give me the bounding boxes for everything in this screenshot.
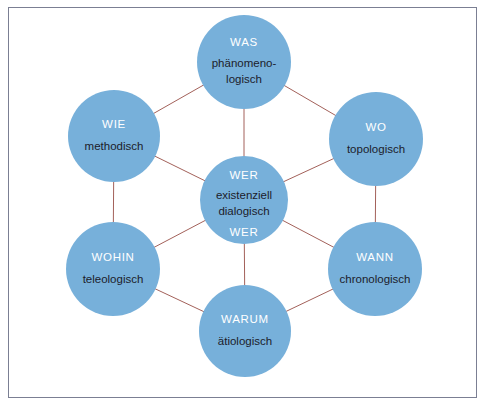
node-desc1-wer: existenziell bbox=[216, 189, 272, 201]
node-title-top-wer: WER bbox=[230, 169, 259, 181]
node-title-wann: WANN bbox=[356, 251, 394, 263]
node-circle-wie[interactable] bbox=[68, 90, 160, 182]
node-circle-wo[interactable] bbox=[329, 92, 423, 186]
connector-wer-to-wohin bbox=[154, 220, 206, 248]
node-wer-center[interactable]: WERexistenzielldialogischWER bbox=[200, 156, 288, 244]
node-title-wo: WO bbox=[365, 121, 386, 133]
node-circle-wohin[interactable] bbox=[66, 222, 160, 316]
node-desc1-wann: chronologisch bbox=[340, 273, 411, 285]
connector-was-to-wo bbox=[284, 85, 337, 116]
node-circle-warum[interactable] bbox=[199, 285, 291, 377]
connector-wann-to-warum bbox=[286, 289, 334, 312]
connector-wer-to-wann bbox=[282, 220, 334, 248]
node-circle-wann[interactable] bbox=[328, 222, 422, 316]
node-title-wohin: WOHIN bbox=[91, 251, 134, 263]
node-desc1-was: phänomeno- bbox=[212, 57, 277, 69]
node-desc1-wie: methodisch bbox=[85, 140, 144, 152]
node-title-was: WAS bbox=[230, 36, 258, 48]
node-was[interactable]: WASphänomeno-logisch bbox=[197, 15, 291, 109]
connector-wer-to-wie bbox=[154, 156, 205, 181]
node-desc1-warum: ätiologisch bbox=[218, 335, 272, 347]
node-desc1-wohin: teleologisch bbox=[83, 273, 144, 285]
node-layer: WASphänomeno-logischWOtopologischWANNchr… bbox=[66, 15, 423, 377]
w-questions-diagram: WASphänomeno-logischWOtopologischWANNchr… bbox=[0, 0, 485, 407]
connector-warum-to-wohin bbox=[155, 289, 205, 312]
node-wie[interactable]: WIEmethodisch bbox=[68, 90, 160, 182]
node-title-bottom-wer: WER bbox=[230, 226, 259, 238]
node-title-warum: WARUM bbox=[221, 313, 269, 325]
node-title-wie: WIE bbox=[102, 118, 126, 130]
node-wo[interactable]: WOtopologisch bbox=[329, 92, 423, 186]
node-wohin[interactable]: WOHINteleologisch bbox=[66, 222, 160, 316]
node-desc1-wo: topologisch bbox=[347, 143, 405, 155]
connector-wer-to-wo bbox=[283, 158, 334, 182]
connector-wie-to-was bbox=[153, 85, 204, 114]
node-desc2-was: logisch bbox=[226, 73, 262, 85]
node-desc2-wer: dialogisch bbox=[218, 205, 269, 217]
node-wann[interactable]: WANNchronologisch bbox=[328, 222, 422, 316]
node-warum[interactable]: WARUMätiologisch bbox=[199, 285, 291, 377]
diagram-canvas: WASphänomeno-logischWOtopologischWANNchr… bbox=[0, 0, 485, 407]
